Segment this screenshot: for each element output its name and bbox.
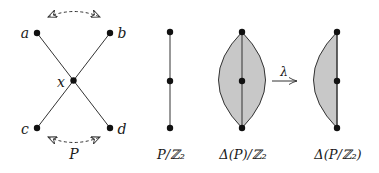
node-label-d: d xyxy=(118,122,127,136)
swap-arrow-bottom xyxy=(48,137,100,143)
delta-of-quotient-complex xyxy=(314,29,341,131)
delta-quotient-complex xyxy=(219,29,266,131)
caption-quotient: P/ℤ₂ xyxy=(157,148,185,161)
node-label-a: a xyxy=(21,26,29,40)
node-d xyxy=(107,125,113,131)
node-b xyxy=(107,30,113,36)
arrow-label-lambda: λ xyxy=(280,66,288,78)
node-c xyxy=(34,125,40,131)
node-label-b: b xyxy=(118,26,127,40)
poset-p xyxy=(34,12,113,143)
node-a xyxy=(34,30,40,36)
node-x xyxy=(70,77,76,83)
quotient-poset xyxy=(167,29,173,131)
caption-delta-of-quotient: Δ(P/ℤ₂) xyxy=(314,148,361,161)
caption-p: P xyxy=(69,147,78,161)
swap-arrow-top xyxy=(48,12,100,18)
node-label-x: x xyxy=(57,75,65,89)
caption-delta-quotient: Δ(P)/ℤ₂ xyxy=(219,148,266,161)
node-label-c: c xyxy=(21,122,29,136)
